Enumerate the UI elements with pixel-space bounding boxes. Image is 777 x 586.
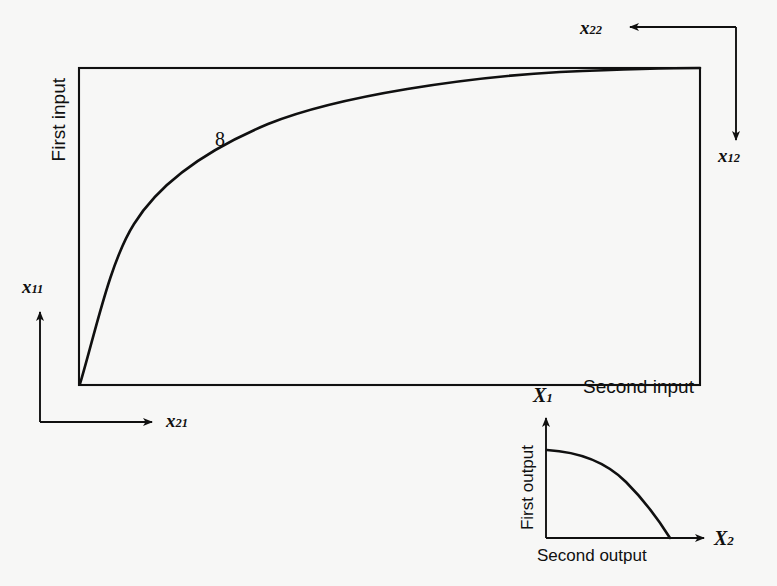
x12-flow-label: x12 [718, 145, 740, 167]
x11-subscript: 11 [32, 282, 44, 296]
inset-x1-axis-symbol: X1 [533, 384, 553, 407]
first-input-axis-label: First input [48, 78, 70, 161]
inset-x1-subscript: 1 [546, 390, 553, 405]
main-box-rectangle [79, 68, 700, 385]
inset-x2-subscript: 2 [727, 533, 734, 548]
isoquant-value-label: 8 [215, 128, 225, 151]
x22-flow-label: x22 [580, 17, 602, 39]
x21-flow-label: x21 [166, 410, 188, 432]
second-output-axis-label: Second output [537, 546, 647, 566]
figure-canvas: First input Second input 8 x11 x21 x22 x… [0, 0, 777, 586]
x12-subscript: 12 [728, 151, 741, 165]
inset-x1-base: X [533, 384, 546, 406]
first-output-axis-label: First output [518, 445, 538, 530]
isoquant-curve [80, 68, 700, 384]
inset-x2-axis-symbol: X2 [714, 527, 734, 550]
inset-ppf-curve [547, 450, 670, 538]
x22-base: x [580, 17, 590, 38]
x11-flow-label: x11 [22, 276, 43, 298]
second-input-axis-label: Second input [583, 376, 694, 398]
inset-x2-base: X [714, 527, 727, 549]
x22-subscript: 22 [590, 23, 603, 37]
x12-base: x [718, 145, 728, 166]
x21-base: x [166, 410, 176, 431]
x11-base: x [22, 276, 32, 297]
diagram-vector-layer [0, 0, 777, 586]
x21-subscript: 21 [176, 416, 189, 430]
